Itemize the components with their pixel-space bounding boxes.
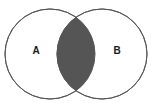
venn-diagram-svg: A B — [0, 0, 153, 108]
set-b-label: B — [113, 45, 120, 56]
venn-diagram-figure: A B — [0, 0, 153, 108]
set-a-label: A — [32, 45, 39, 56]
